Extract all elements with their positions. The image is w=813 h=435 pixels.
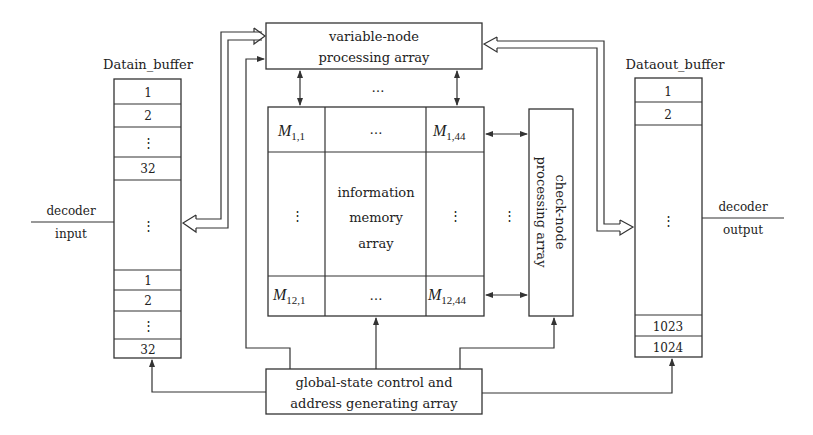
global-state-control-array: global-state control and address generat… (266, 369, 482, 414)
ctrl-to-dataout (482, 359, 672, 393)
ellipsis-left-col: ⋮ (291, 208, 304, 223)
datain-cell: ⋮ (142, 135, 155, 150)
dataout-cell: ⋮ (662, 213, 675, 228)
datain-buffer-title: Datain_buffer (103, 57, 194, 72)
ellipsis-vn-mem: … (372, 80, 385, 95)
cn-label-1: check-node (553, 175, 568, 250)
dataout-buffer: Dataout_buffer 1 2 ⋮ 1023 1024 (626, 57, 726, 357)
decoder-output: decoder output (702, 200, 784, 237)
dataout-cell: 1023 (653, 320, 684, 334)
ellipsis-top-row: … (370, 122, 383, 137)
datain-cell: 32 (140, 162, 155, 176)
ctrl-to-datain (152, 360, 266, 392)
dataout-cell: 2 (664, 108, 672, 122)
dataout-buffer-title: Dataout_buffer (626, 57, 726, 72)
decoder-input-label-1: decoder (46, 204, 96, 218)
datain-cell: 2 (144, 109, 152, 123)
variable-node-processing-array: variable-node processing array (266, 23, 482, 69)
ctrl-to-check-node (460, 318, 554, 369)
gc-label-1: global-state control and (295, 375, 452, 390)
decoder-output-label-2: output (723, 223, 763, 237)
ellipsis-bottom-row: … (370, 288, 383, 303)
check-node-processing-array: check-node processing array (529, 109, 573, 316)
datain-cell: 1 (144, 86, 152, 100)
datain-cell: ⋮ (142, 218, 155, 233)
datain-cell: 1 (144, 274, 152, 288)
vn-label-2: processing array (319, 50, 431, 65)
decoder-input: decoder input (31, 204, 114, 241)
dataout-cell: 1 (664, 85, 672, 99)
memory-label-2: memory (349, 210, 403, 225)
information-memory-array: M1,1 … M1,44 ⋮ information memory array … (268, 107, 484, 316)
datain-buffer: Datain_buffer 1 2 ⋮ 32 ⋮ 1 2 ⋮ 32 (103, 57, 194, 358)
datain-cell: ⋮ (142, 318, 155, 333)
decoder-output-label-1: decoder (718, 200, 768, 214)
datain-cell: 32 (140, 343, 155, 357)
decoder-architecture-diagram: Datain_buffer 1 2 ⋮ 32 ⋮ 1 2 ⋮ 32 decode… (0, 0, 813, 435)
dataout-cell: 1024 (653, 341, 684, 355)
ellipsis-mem-cn: ⋮ (503, 208, 516, 223)
memory-label-3: array (358, 236, 394, 251)
datain-cell: 2 (144, 294, 152, 308)
vn-label-1: variable-node (328, 29, 419, 44)
cn-label-2: processing array (534, 157, 549, 269)
ellipsis-right-col: ⋮ (449, 208, 462, 223)
decoder-input-label-2: input (55, 227, 87, 241)
memory-label-1: information (337, 185, 415, 200)
gc-label-2: address generating array (290, 396, 458, 411)
